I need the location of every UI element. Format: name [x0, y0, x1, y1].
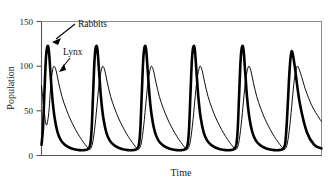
- annotation-lynx: Lynx: [59, 47, 83, 72]
- annotation-rabbits: Rabbits: [52, 19, 107, 45]
- population-cycle-chart: 0 50 100 150 Population Time Rabbits Lyn…: [0, 0, 332, 186]
- plot-frame: [42, 22, 322, 156]
- x-axis-title: Time: [171, 167, 192, 178]
- y-axis-title: Population: [5, 66, 16, 109]
- series-line-rabbits: [42, 46, 322, 150]
- annotation-arrow-rabbits-line: [56, 24, 75, 39]
- y-tick-label-150: 150: [20, 17, 34, 27]
- annotation-arrow-lynx-head: [59, 64, 66, 72]
- annotation-label-lynx: Lynx: [63, 47, 83, 57]
- y-tick-label-100: 100: [20, 61, 34, 71]
- y-tick-label-0: 0: [29, 151, 34, 161]
- y-tick-label-50: 50: [24, 106, 34, 116]
- series-line-lynx: [42, 66, 322, 150]
- annotation-label-rabbits: Rabbits: [78, 19, 107, 29]
- y-axis-ticks: [37, 22, 42, 156]
